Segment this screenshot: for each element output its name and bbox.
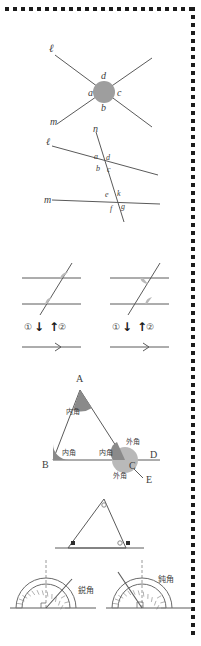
right-angle-mark-left [41, 603, 46, 608]
marker-one-right: ① [112, 322, 120, 332]
angle-shade-right-top [140, 278, 148, 284]
vertex-label-A: A [76, 373, 84, 384]
marker-two-right: ② [146, 322, 154, 332]
figure-transversal: ℓ m n a d b c e k f g [0, 120, 201, 230]
angle-label-f: f [110, 204, 114, 213]
angle-label-e: e [105, 190, 109, 199]
protractor-obtuse: 鈍角 [106, 560, 192, 609]
vertex-mark-square [71, 541, 75, 545]
vertex-label-B: B [42, 459, 49, 470]
angle-label-a: a [88, 87, 93, 98]
protractor-ray-obtuse [118, 572, 142, 608]
line-label-n: n [93, 123, 98, 134]
angle-label-c-2: c [107, 165, 111, 174]
exterior-label-lower: 外角 [113, 471, 127, 480]
angle-label-c: c [117, 87, 122, 98]
figure-triangle-marks [0, 490, 201, 560]
interior-label-C: 内角 [99, 448, 113, 457]
vertex-label-C: C [129, 460, 136, 471]
figure-triangle-angles: A 内角 内角 内角 外角 外角 B C D E [0, 368, 201, 483]
angle-label-b: b [101, 102, 106, 113]
angle-label-d: d [101, 70, 107, 81]
figure-protractors: 鋭角 [0, 556, 201, 636]
vertex-mark-circle-open-2 [118, 541, 122, 545]
angle-label-k: k [117, 189, 121, 198]
angle-shade-left-bottom [45, 297, 52, 304]
label-obtuse: 鈍角 [158, 574, 174, 584]
arrow-down-left: ↓ [34, 320, 44, 334]
line-label-m-2: m [44, 194, 51, 205]
vertex-label-E: E [146, 474, 152, 485]
angle-label-a-2: a [94, 152, 98, 161]
vertex-label-D: D [150, 449, 157, 460]
line-label-ell: ℓ [49, 42, 54, 54]
angle-label-d-2: d [106, 153, 111, 162]
angle-shade-left-top [60, 272, 68, 278]
intersection-shade [93, 81, 115, 103]
label-acute: 鋭角 [78, 585, 94, 595]
dotted-frame-top [5, 7, 195, 11]
marker-two-left: ② [58, 322, 66, 332]
vertex-mark-square-2 [126, 541, 130, 545]
angle-label-g: g [121, 202, 125, 211]
worksheet-page: ℓ m a b c d ℓ m n a d b c e k f g [0, 0, 201, 646]
line-label-ell-2: ℓ [46, 136, 50, 147]
interior-label-A: 内角 [66, 407, 80, 416]
angle-label-b-2: b [96, 164, 100, 173]
vertex-mark-circle-open [102, 503, 106, 507]
exterior-label-upper: 外角 [126, 437, 140, 446]
marker-one-left: ① [24, 322, 32, 332]
figure-angle-pairs: ① ↓ ↑ ② ① ↓ ↑ ② [0, 236, 201, 360]
arrow-down-right: ↓ [122, 320, 132, 334]
interior-label-B: 内角 [62, 448, 76, 457]
figure-vertical-angles: ℓ m a b c d [0, 20, 201, 130]
angle-shade-right-bottom [145, 297, 152, 304]
protractor-acute: 鋭角 [10, 560, 96, 609]
